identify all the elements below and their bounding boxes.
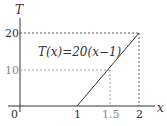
- tick-y10: 10: [5, 65, 19, 76]
- tick-x15: 1.5: [102, 109, 120, 120]
- function-line: [77, 33, 139, 106]
- y-axis-label: T: [15, 4, 23, 16]
- tick-y20: 20: [5, 28, 19, 39]
- origin-label: 0: [11, 109, 18, 120]
- tick-x1: 1: [74, 109, 81, 120]
- equation-label: T(x)=20(x−1): [38, 46, 121, 58]
- tick-x2: 2: [136, 109, 143, 120]
- x-axis-label: x: [157, 102, 164, 114]
- chart: T x 20 10 0 1 1.5 2 T(x)=20(x−1): [0, 0, 167, 126]
